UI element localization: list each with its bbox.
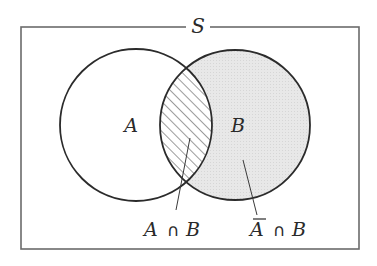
set-b-label: B (230, 114, 245, 136)
intersection-label: A ∩ B (142, 218, 200, 240)
set-a-label: A (122, 114, 138, 136)
venn-diagram: S A B A ∩ B A ∩ B (0, 0, 377, 266)
intersection-operator: ∩ (167, 220, 179, 240)
complement-label: A ∩ B (248, 218, 306, 240)
complement-operator: ∩ (273, 220, 285, 240)
complement-label-a: A (248, 218, 264, 240)
complement-label-b: B (291, 218, 306, 240)
universe-label: S (191, 14, 205, 38)
intersection-label-a: A (142, 218, 158, 240)
intersection-label-b: B (185, 218, 200, 240)
